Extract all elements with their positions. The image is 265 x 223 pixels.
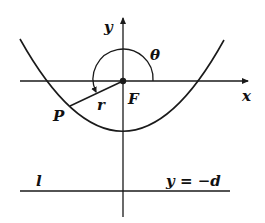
focus-point	[120, 78, 126, 84]
point-label: P	[52, 107, 65, 125]
radius-label: r	[97, 96, 106, 114]
parabola-curve	[20, 39, 224, 131]
x-axis-label: x	[241, 87, 252, 105]
focus-label: F	[127, 90, 140, 108]
parabola-diagram: y θ x F r P l y = −d	[0, 0, 265, 223]
directrix-equation-label: y = −d	[165, 172, 221, 190]
y-axis-label: y	[103, 18, 114, 36]
directrix-name-label: l	[36, 172, 42, 190]
theta-label: θ	[150, 46, 160, 64]
